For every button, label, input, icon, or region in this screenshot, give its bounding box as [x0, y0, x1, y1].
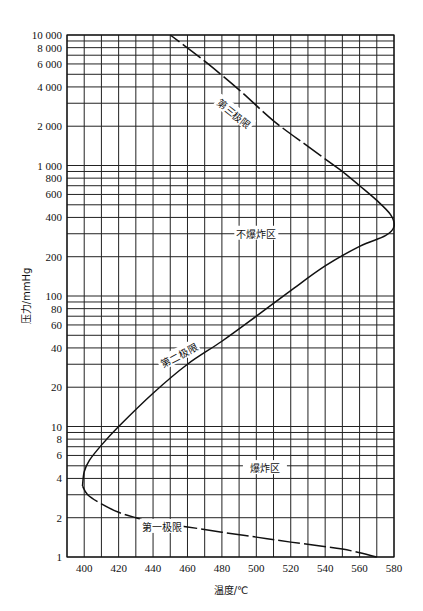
y-tick-label: 6 — [57, 449, 63, 461]
x-tick-label: 480 — [214, 562, 231, 574]
x-axis-ticks: 400420440460480500520540560580 — [76, 562, 403, 574]
y-tick-label: 2 000 — [37, 120, 62, 132]
y-tick-label: 8 — [57, 433, 63, 445]
x-tick-label: 580 — [386, 562, 403, 574]
x-tick-label: 560 — [351, 562, 368, 574]
y-tick-label: 200 — [46, 251, 63, 263]
annotation-label: 爆炸区 — [250, 463, 280, 474]
x-tick-label: 500 — [248, 562, 265, 574]
y-tick-label: 10 — [51, 421, 63, 433]
y-tick-label: 400 — [46, 211, 63, 223]
x-tick-label: 460 — [179, 562, 196, 574]
y-tick-label: 40 — [51, 342, 63, 354]
annotation-label: 第三极限 — [214, 97, 253, 131]
y-tick-label: 2 — [57, 512, 63, 524]
y-tick-label: 1 000 — [37, 160, 62, 172]
x-axis-label: 温度/℃ — [214, 584, 249, 596]
annotations: 第三极限不爆炸区第二极限爆炸区第一极限 — [140, 94, 287, 533]
y-tick-label: 8 000 — [37, 42, 62, 54]
y-tick-label: 4 000 — [37, 81, 62, 93]
y-tick-label: 4 — [57, 472, 63, 484]
y-tick-label: 6 000 — [37, 58, 62, 70]
x-tick-label: 520 — [282, 562, 299, 574]
y-tick-label: 10 000 — [32, 29, 63, 41]
x-tick-label: 440 — [145, 562, 162, 574]
explosion-limit-chart: 1246810204060801002004006008001 0002 000… — [0, 0, 423, 611]
y-tick-label: 60 — [51, 319, 63, 331]
y-tick-label: 100 — [46, 290, 63, 302]
y-tick-label: 600 — [46, 188, 63, 200]
y-tick-label: 20 — [51, 381, 63, 393]
y-tick-label: 1 — [57, 551, 63, 563]
y-axis-label: 压力/mmHg — [20, 268, 32, 325]
annotation-label: 不爆炸区 — [236, 229, 276, 240]
x-tick-label: 540 — [317, 562, 334, 574]
annotation-label: 第一极限 — [142, 521, 182, 533]
y-tick-label: 80 — [51, 303, 63, 315]
y-tick-label: 800 — [46, 172, 63, 184]
x-tick-label: 400 — [76, 562, 93, 574]
y-axis-ticks: 1246810204060801002004006008001 0002 000… — [32, 29, 63, 563]
x-tick-label: 420 — [110, 562, 127, 574]
curve-第一极限 — [82, 486, 376, 557]
